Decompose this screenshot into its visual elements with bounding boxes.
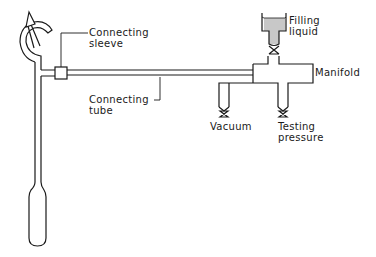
connecting-tube: [67, 70, 253, 75]
connecting-sleeve: [55, 67, 67, 79]
manifold: [219, 56, 313, 107]
label-connecting-tube: Connecting tube: [89, 94, 149, 116]
leader-connecting-tube: [154, 77, 160, 100]
label-filling-liquid: Filling liquid: [289, 15, 320, 37]
label-manifold: Manifold: [315, 67, 360, 78]
vacuum-valve: [219, 107, 229, 117]
filling-valve: [269, 46, 279, 54]
label-testing-pressure: Testing pressure: [278, 121, 324, 143]
testing-pressure-valve: [278, 107, 288, 117]
break-seal-hook: [20, 12, 52, 70]
label-connecting-sleeve: Connecting sleeve: [89, 27, 149, 49]
ampoule-tube: [29, 62, 55, 246]
label-vacuum: Vacuum: [210, 121, 252, 132]
leader-connecting-sleeve: [61, 33, 88, 67]
filling-funnel: [262, 13, 286, 46]
